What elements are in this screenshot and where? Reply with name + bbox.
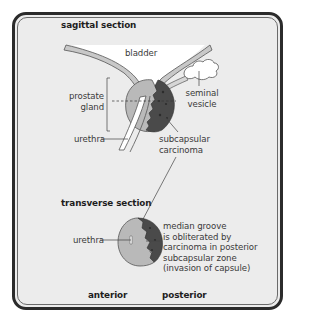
label-anterior: anterior: [88, 290, 127, 301]
label-carcinoma-line1: subcapsular: [159, 134, 210, 145]
note-line4: subcapsular zone: [163, 253, 257, 264]
label-seminal-vesicle: seminal vesicle: [182, 88, 222, 109]
sagittal-section-title: sagittal section: [61, 20, 136, 31]
label-prostate-gland: prostate gland: [60, 91, 104, 112]
label-posterior: posterior: [162, 290, 207, 301]
label-bladder: bladder: [125, 48, 157, 59]
label-carcinoma-line2: carcinoma: [159, 145, 210, 156]
transverse-illustration: [100, 218, 163, 266]
label-subcapsular-carcinoma: subcapsular carcinoma: [159, 134, 210, 155]
sagittal-illustration: [64, 45, 218, 221]
label-seminal-vesicle-line1: seminal: [182, 88, 222, 99]
transverse-section-title: transverse section: [61, 198, 151, 209]
label-seminal-vesicle-line2: vesicle: [182, 99, 222, 110]
label-prostate-gland-line2: gland: [60, 102, 104, 113]
note-line2: is obliterated by: [163, 232, 257, 243]
prostate-bracket: [107, 78, 110, 131]
note-line5: (invasion of capsule): [163, 263, 257, 274]
label-urethra-transverse: urethra: [73, 235, 104, 246]
label-prostate-gland-line1: prostate: [60, 91, 104, 102]
note-line1: median groove: [163, 221, 257, 232]
label-urethra-sagittal: urethra: [74, 134, 105, 145]
label-median-groove-note: median groove is obliterated by carcinom…: [163, 221, 257, 274]
note-line3: carcinoma in posterior: [163, 242, 257, 253]
